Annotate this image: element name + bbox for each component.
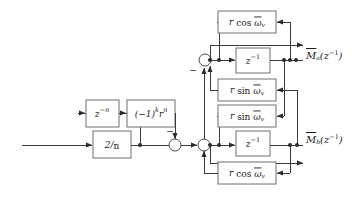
r-cos-top-label: r cos ωv (229, 17, 265, 27)
junction-dot-top-b (208, 58, 212, 62)
r-cos-block-top: r cos ωv (218, 11, 276, 33)
junction-dot-feedback-d (288, 143, 292, 147)
output-label-a: Ma(z−1) (305, 49, 343, 61)
block-diagram-canvas: 2/n z−n (−1)krn − (0, 0, 357, 198)
svg-text:Mb(z−1): Mb(z−1) (305, 133, 343, 145)
wire-rcos-bot-to-sum2 (204, 158, 218, 173)
gain-block-label: 2/n (104, 140, 120, 150)
wire-rsin-top-to-sum3 (210, 72, 218, 90)
delay-block-z-minus-n: z−n (86, 100, 119, 127)
junction-dot-out-a (294, 58, 298, 62)
output-label-b: Mb(z−1) (305, 133, 343, 145)
r-sin-block-bottom: r sin ωv (218, 105, 276, 127)
summing-junction-3: − (189, 54, 211, 75)
junction-dot-feedback-c (282, 58, 286, 62)
unit-delay-block-top: z−1 (236, 48, 270, 73)
power-block-label: (−1)krn (135, 106, 168, 119)
svg-text:Ma(z−1): Ma(z−1) (305, 49, 343, 61)
power-block-minus-one-k-r-n: (−1)krn (127, 100, 175, 127)
r-cos-block-bottom: r cos ωv (218, 162, 276, 184)
minus-sign-sum1: − (166, 126, 174, 136)
unit-delay-block-bottom: z−1 (236, 131, 270, 156)
r-sin-block-top: r sin ωv (218, 79, 276, 101)
gain-block-2-over-n: 2/n (93, 131, 131, 158)
junction-dot-feedback-a (288, 58, 292, 62)
r-sin-top-label: r sin ωv (230, 85, 265, 95)
r-cos-bottom-label: r cos ωv (229, 168, 265, 178)
minus-sign-sum3: − (189, 65, 197, 75)
r-sin-bottom-label: r sin ωv (230, 111, 265, 121)
signal-flow-diagram: 2/n z−n (−1)krn − (0, 0, 357, 198)
summing-junction-1 (169, 139, 181, 151)
